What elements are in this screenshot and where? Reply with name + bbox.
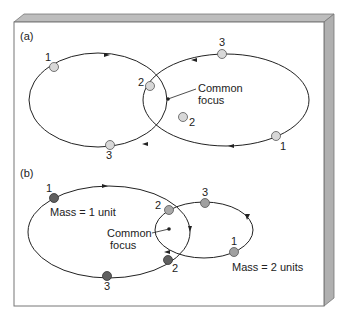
label-right-2: 2 <box>189 116 195 128</box>
body-left-pos2 <box>146 82 155 91</box>
body-mass2-pos1 <box>230 248 239 257</box>
label-m2-2: 2 <box>155 199 161 211</box>
body-mass2-pos3 <box>201 199 210 208</box>
label-left-2: 2 <box>138 76 144 88</box>
panel-b-label: (b) <box>20 167 33 179</box>
frame-right-bevel <box>324 14 334 306</box>
body-mass2-pos2 <box>165 206 174 215</box>
label-m1-3: 3 <box>104 280 110 292</box>
label-left-1: 1 <box>45 51 51 63</box>
body-right-pos2 <box>179 113 188 122</box>
body-right-pos3 <box>218 50 227 59</box>
focus-label-line1: Common <box>107 227 152 239</box>
label-right-1: 1 <box>280 140 286 152</box>
body-mass1-pos1 <box>50 194 59 203</box>
frame-top-bevel <box>14 14 334 22</box>
label-m1-1: 1 <box>46 182 52 194</box>
focus-label-line2: focus <box>110 239 137 251</box>
mass-1-label: Mass = 1 unit <box>50 206 116 218</box>
panel-a-label: (a) <box>20 30 33 42</box>
mass-2-label: Mass = 2 units <box>232 261 304 273</box>
binary-orbit-diagram: (a) Common focus 1 2 3 3 2 1 (b) <box>0 0 342 320</box>
label-right-3: 3 <box>219 36 225 48</box>
label-left-3: 3 <box>106 149 112 161</box>
focus-label-line1: Common <box>198 82 243 94</box>
label-m2-1: 1 <box>231 235 237 247</box>
label-m2-3: 3 <box>202 186 208 198</box>
label-m1-2: 2 <box>172 262 178 274</box>
focus-label-line2: focus <box>198 94 225 106</box>
body-left-pos1 <box>50 63 59 72</box>
